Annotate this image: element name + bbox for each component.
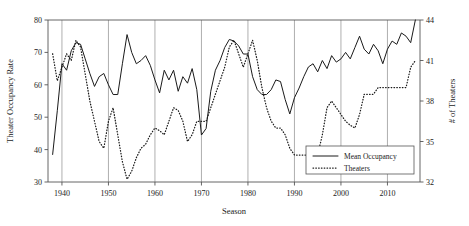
x-tick-label: 1970 — [193, 189, 209, 198]
y2-tick-label: 41 — [426, 57, 434, 66]
legend-label: Theaters — [344, 164, 370, 173]
y2-tick-label: 38 — [426, 97, 434, 106]
x-axis-title: Season — [222, 206, 247, 216]
y-tick-label: 60 — [34, 81, 42, 90]
y-tick-label: 70 — [34, 48, 42, 57]
x-tick-label: 2010 — [379, 189, 395, 198]
y-tick-label: 50 — [34, 113, 42, 122]
y-tick-label: 40 — [34, 146, 42, 155]
x-tick-label: 1940 — [54, 189, 70, 198]
y2-tick-label: 44 — [426, 16, 434, 25]
x-tick-label: 1980 — [240, 189, 256, 198]
legend-label: Mean Occupancy — [344, 152, 397, 161]
y-axis-right-title: # of Theaters — [447, 79, 457, 124]
legend: Mean OccupancyTheaters — [306, 146, 414, 174]
series-line-mean-occupancy — [53, 20, 416, 154]
y2-tick-label: 32 — [426, 178, 434, 187]
chart-figure: 19401950196019701980199020002010 3040506… — [0, 0, 469, 226]
x-tick-label: 2000 — [333, 189, 349, 198]
y-axis-left-title: Theater Occupancy Rate — [5, 59, 15, 143]
x-tick-label: 1950 — [100, 189, 116, 198]
y-axis-left-ticks: 304050607080 — [34, 16, 48, 187]
x-tick-label: 1990 — [286, 189, 302, 198]
x-axis-ticks: 19401950196019701980199020002010 — [54, 182, 396, 198]
y-tick-label: 80 — [34, 16, 42, 25]
y-tick-label: 30 — [34, 178, 42, 187]
y2-tick-label: 35 — [426, 138, 434, 147]
y-axis-right-ticks: 3235384144 — [420, 16, 434, 187]
chart-canvas: 19401950196019701980199020002010 3040506… — [0, 0, 469, 226]
x-tick-label: 1960 — [147, 189, 163, 198]
